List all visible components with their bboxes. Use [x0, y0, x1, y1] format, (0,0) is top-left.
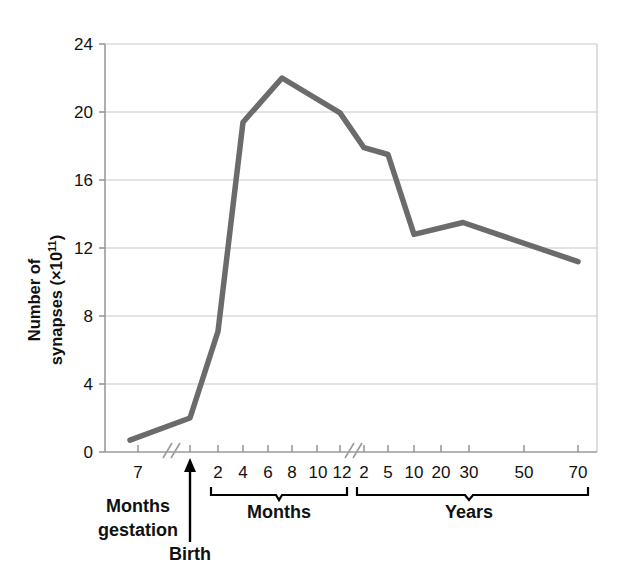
x-label-year-2: 2: [359, 463, 368, 482]
x-label-year-30: 30: [460, 463, 479, 482]
x-label-year-20: 20: [432, 463, 451, 482]
y-axis-title-line2: synapses (×1011): [46, 235, 65, 365]
y-tick-label-4: 4: [84, 375, 93, 394]
x-label-year-70: 70: [569, 463, 588, 482]
x-label-month-10: 10: [309, 463, 328, 482]
y-tick-label-8: 8: [84, 307, 93, 326]
y-tick-label-20: 20: [74, 103, 93, 122]
caption-gestation-line1: Months: [106, 496, 170, 516]
x-label-gestation-7: 7: [133, 463, 142, 482]
y-tick-label-0: 0: [84, 443, 93, 462]
y-axis-title-line2-prefix: synapses (×10: [47, 252, 65, 365]
x-label-year-50: 50: [515, 463, 534, 482]
y-tick-label-16: 16: [74, 171, 93, 190]
y-tick-label-24: 24: [74, 35, 93, 54]
x-label-month-8: 8: [287, 463, 296, 482]
caption-birth: Birth: [169, 544, 211, 564]
x-label-month-4: 4: [238, 463, 247, 482]
y-axis-title-exponent: 11: [46, 240, 58, 252]
x-label-month-6: 6: [263, 463, 272, 482]
caption-years: Years: [445, 502, 493, 522]
y-tick-label-12: 12: [74, 239, 93, 258]
x-label-year-5: 5: [383, 463, 392, 482]
x-label-month-12: 12: [333, 463, 352, 482]
y-axis-title-line1: Number of: [25, 258, 43, 341]
x-label-year-10: 10: [405, 463, 424, 482]
x-label-month-2: 2: [213, 463, 222, 482]
caption-gestation-line2: gestation: [98, 520, 178, 540]
chart-svg: Number of synapses (×1011): [0, 0, 625, 567]
caption-months: Months: [247, 502, 311, 522]
y-axis-title-line2-suffix: ): [47, 235, 65, 241]
synapse-density-chart: Number of synapses (×1011): [0, 0, 625, 567]
